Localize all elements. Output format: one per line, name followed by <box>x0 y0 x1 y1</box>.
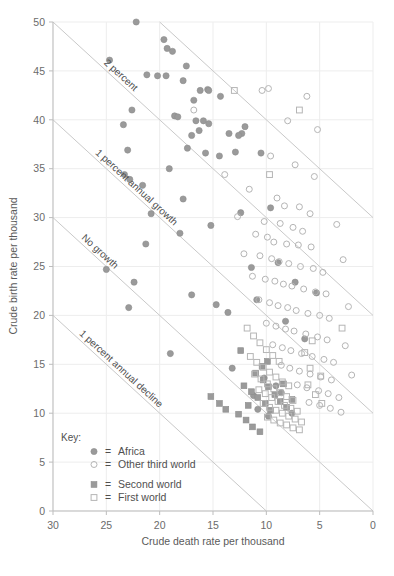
data-point <box>248 264 254 270</box>
data-point <box>120 122 126 128</box>
legend-label: Other third world <box>118 458 196 470</box>
y-tick-label: 15 <box>33 358 45 370</box>
y-tick-label: 0 <box>39 505 45 517</box>
data-point <box>180 196 186 202</box>
y-tick-label: 10 <box>33 407 45 419</box>
legend-title: Key: <box>61 432 81 443</box>
data-point <box>202 150 208 156</box>
data-point <box>206 87 212 93</box>
data-point <box>133 19 139 25</box>
data-point <box>223 406 229 412</box>
x-tick-label: 5 <box>317 519 323 531</box>
data-point <box>208 222 214 228</box>
data-point <box>166 166 172 172</box>
data-point <box>229 365 235 371</box>
data-point <box>232 149 238 155</box>
data-point <box>144 72 150 78</box>
y-tick-label: 30 <box>33 211 45 223</box>
data-point <box>250 424 256 430</box>
data-point <box>161 37 167 43</box>
y-tick-label: 5 <box>39 456 45 468</box>
data-point <box>282 318 288 324</box>
legend-label: Second world <box>118 478 182 490</box>
legend-equals: = <box>105 478 111 490</box>
data-point <box>183 63 189 69</box>
legend-marker-filled-circle <box>91 448 97 454</box>
data-point <box>196 127 202 133</box>
x-tick-label: 0 <box>370 519 376 531</box>
data-point <box>238 210 244 216</box>
scatter-plot-svg: 30252015105005101520253035404550 2 perce… <box>0 0 394 576</box>
data-point <box>277 399 283 405</box>
data-point <box>184 145 190 151</box>
legend-entry: =Second world <box>91 478 182 490</box>
legend-label: Africa <box>118 445 145 457</box>
legend-marker-filled-square <box>91 482 97 488</box>
data-point <box>154 73 160 79</box>
data-point <box>255 395 261 401</box>
data-point <box>189 132 195 138</box>
data-point <box>125 147 131 153</box>
x-tick-label: 15 <box>207 519 219 531</box>
legend-equals: = <box>105 445 111 457</box>
data-point <box>255 406 261 412</box>
data-point <box>262 401 268 407</box>
legend-label: First world <box>118 491 167 503</box>
data-point <box>238 348 244 354</box>
data-point <box>177 230 183 236</box>
data-point <box>217 401 223 407</box>
data-point <box>292 279 298 285</box>
y-tick-label: 45 <box>33 65 45 77</box>
data-point <box>175 114 181 120</box>
data-point <box>216 153 222 159</box>
data-point <box>197 87 203 93</box>
data-point <box>206 121 212 127</box>
data-point <box>225 309 231 315</box>
y-tick-label: 35 <box>33 162 45 174</box>
data-point <box>249 389 255 395</box>
data-point <box>258 150 264 156</box>
data-point <box>191 97 197 103</box>
data-point <box>164 45 170 51</box>
data-point <box>167 350 173 356</box>
legend-equals: = <box>105 491 111 503</box>
chart-background <box>0 0 394 576</box>
legend-entry: =Other third world <box>91 458 196 470</box>
data-point <box>243 417 249 423</box>
data-point <box>241 383 247 389</box>
data-point <box>103 266 109 272</box>
data-point <box>245 402 251 408</box>
x-tick-label: 30 <box>47 519 59 531</box>
data-point <box>180 78 186 84</box>
data-point <box>257 429 263 435</box>
data-point <box>163 73 169 79</box>
data-point <box>189 292 195 298</box>
data-point <box>208 394 214 400</box>
data-point <box>131 279 137 285</box>
x-tick-label: 10 <box>260 519 272 531</box>
data-point <box>213 302 219 308</box>
data-point <box>236 132 242 138</box>
data-point <box>193 118 199 124</box>
x-tick-label: 20 <box>154 519 166 531</box>
y-axis-title: Crude birth rate per thousand <box>7 197 19 334</box>
data-point <box>148 211 154 217</box>
y-tick-label: 25 <box>33 260 45 272</box>
y-tick-label: 50 <box>33 16 45 28</box>
data-point <box>236 411 242 417</box>
data-point <box>126 304 132 310</box>
data-point <box>265 358 271 364</box>
y-tick-label: 20 <box>33 309 45 321</box>
data-point <box>217 93 223 99</box>
data-point <box>242 124 248 130</box>
data-point <box>226 130 232 136</box>
data-point <box>268 205 274 211</box>
y-tick-label: 40 <box>33 114 45 126</box>
data-point <box>143 241 149 247</box>
chart-figure: 30252015105005101520253035404550 2 perce… <box>0 0 394 576</box>
x-axis-title: Crude death rate per thousand <box>141 535 284 547</box>
legend-equals: = <box>105 458 111 470</box>
data-point <box>129 107 135 113</box>
x-tick-label: 25 <box>100 519 112 531</box>
